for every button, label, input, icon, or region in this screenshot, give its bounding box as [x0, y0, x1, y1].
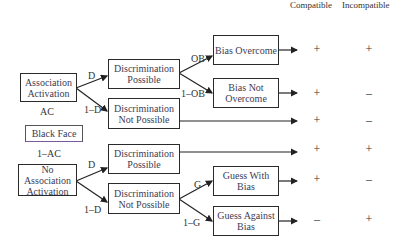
- association-activation-box: Association Activation: [20, 73, 77, 102]
- label-1-g: 1–G: [183, 217, 200, 228]
- bias-overcome-box: Bias Overcome: [213, 35, 279, 65]
- label-ac: AC: [40, 106, 54, 117]
- bias-not-overcome-box: Bias Not Overcome: [213, 78, 279, 108]
- header-incompatible: Incompatible: [342, 0, 389, 10]
- outcome-incompatible-2: –: [362, 86, 376, 101]
- discrimination-not-possible-top-box: Discrimination Not Possible: [108, 98, 180, 129]
- outcome-incompatible-6: +: [362, 212, 376, 227]
- outcome-compatible-5: +: [310, 172, 324, 187]
- discrimination-not-possible-bottom-box: Discrimination Not Possible: [108, 183, 180, 214]
- outcome-incompatible-3: –: [362, 113, 376, 128]
- outcome-compatible-1: +: [310, 42, 324, 57]
- label-1-ac: 1–AC: [37, 148, 61, 159]
- outcome-incompatible-5: –: [362, 172, 376, 187]
- outcome-incompatible-4: +: [362, 142, 376, 157]
- guess-against-bias-box: Guess Against Bias: [213, 206, 279, 236]
- outcome-compatible-4: +: [310, 142, 324, 157]
- label-d-top: D: [88, 70, 95, 81]
- discrimination-possible-top-box: Discrimination Possible: [108, 59, 180, 89]
- label-ob: OB: [191, 53, 205, 64]
- outcome-compatible-2: +: [310, 86, 324, 101]
- label-g: G: [194, 179, 201, 190]
- label-1-ob: 1–OB: [181, 88, 205, 99]
- outcome-compatible-3: +: [310, 113, 324, 128]
- header-compatible: Compatible: [290, 0, 332, 10]
- outcome-compatible-6: –: [310, 212, 324, 227]
- label-1-d-bottom: 1–D: [84, 204, 101, 215]
- label-d-bottom: D: [88, 159, 95, 170]
- guess-with-bias-box: Guess With Bias: [213, 166, 279, 196]
- connector-arrows: [0, 0, 397, 238]
- no-association-activation-box: No Association Activation: [18, 164, 77, 196]
- black-face-box: Black Face: [25, 125, 83, 142]
- label-1-d-top: 1–D: [84, 104, 101, 115]
- outcome-incompatible-1: +: [362, 42, 376, 57]
- discrimination-possible-bottom-box: Discrimination Possible: [108, 144, 180, 174]
